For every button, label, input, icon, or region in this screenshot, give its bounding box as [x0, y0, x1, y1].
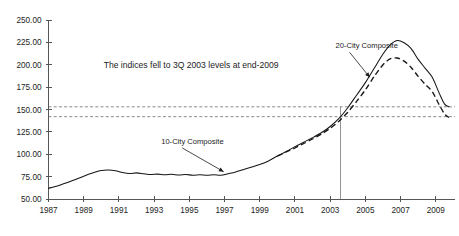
- x-tick-label: 1987: [39, 206, 58, 215]
- x-tick-label: 1991: [110, 206, 129, 215]
- reference-lines-group: [49, 107, 456, 199]
- x-tick-label: 2003: [321, 206, 340, 215]
- series-callout-20-city-composite-leader: [350, 52, 370, 77]
- chart-canvas: 250.00225.00200.00175.00150.00125.00100.…: [0, 0, 459, 236]
- x-tick-label: 1993: [145, 206, 164, 215]
- x-tick-label: 2009: [427, 206, 446, 215]
- y-tick-label: 200.00: [16, 61, 41, 70]
- annotation-indices-note: The indices fell to 3Q 2003 levels at en…: [104, 60, 279, 70]
- y-tick-label: 50.00: [21, 195, 42, 204]
- x-tick-label: 1999: [251, 206, 270, 215]
- house-price-index-chart: 250.00225.00200.00175.00150.00125.00100.…: [0, 0, 459, 236]
- y-tick-label: 225.00: [16, 38, 41, 47]
- y-tick-label: 125.00: [16, 128, 41, 137]
- y-tick-label: 250.00: [16, 16, 41, 25]
- annotations-group: The indices fell to 3Q 2003 levels at en…: [104, 41, 398, 172]
- y-axis-tick-labels: 250.00225.00200.00175.00150.00125.00100.…: [16, 16, 41, 204]
- series-callout-10-city-composite-leader: [182, 148, 223, 172]
- series-label-20-city-composite: 20-City Composite: [335, 41, 397, 50]
- y-tick-label: 175.00: [16, 83, 41, 92]
- y-tick-label: 150.00: [16, 106, 41, 115]
- x-tick-label: 2001: [286, 206, 305, 215]
- x-tick-label: 2005: [356, 206, 375, 215]
- series-label-10-city-composite: 10-City Composite: [161, 137, 223, 146]
- y-tick-label: 100.00: [16, 150, 41, 159]
- x-axis-tick-labels: 1987198919911993199519971999200120032005…: [39, 206, 445, 215]
- x-tick-label: 2007: [391, 206, 410, 215]
- x-tick-label: 1995: [180, 206, 199, 215]
- x-tick-label: 1989: [75, 206, 94, 215]
- y-tick-label: 75.00: [21, 173, 42, 182]
- x-tick-label: 1997: [215, 206, 234, 215]
